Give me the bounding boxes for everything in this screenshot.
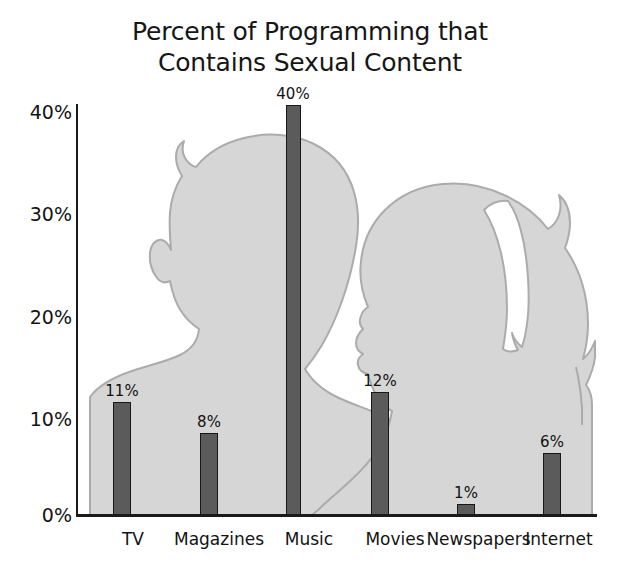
y-tick-0: 0% (4, 506, 72, 525)
bar-tv (113, 402, 131, 515)
x-tick-internet: Internet (509, 529, 609, 549)
bar-movies (371, 392, 389, 515)
bar-label-music: 40% (263, 86, 323, 102)
chart-title-line-2: Contains Sexual Content (0, 47, 620, 78)
bar-magazines (200, 433, 218, 515)
plot-area: 11% 8% 40% 12% 1% 6% (76, 105, 596, 515)
bar-label-tv: 11% (92, 383, 152, 399)
chart-title-line-1: Percent of Programming that (0, 16, 620, 47)
y-axis-line (76, 104, 78, 516)
chart-title: Percent of Programming that Contains Sex… (0, 16, 620, 78)
y-tick-10: 10% (4, 410, 72, 429)
bar-label-internet: 6% (522, 434, 582, 450)
bar-label-newspapers: 1% (436, 485, 496, 501)
sexual-content-bar-chart: Percent of Programming that Contains Sex… (0, 0, 620, 587)
y-tick-40: 40% (4, 103, 72, 122)
y-axis-ticks: 40% 30% 20% 10% 0% (0, 0, 72, 587)
bar-label-movies: 12% (350, 373, 410, 389)
y-tick-30: 30% (4, 205, 72, 224)
y-tick-20: 20% (4, 308, 72, 327)
bar-label-magazines: 8% (179, 414, 239, 430)
bar-music (286, 105, 301, 515)
bar-internet (543, 453, 561, 515)
x-axis-line (76, 514, 597, 517)
silhouette-background (76, 105, 596, 515)
